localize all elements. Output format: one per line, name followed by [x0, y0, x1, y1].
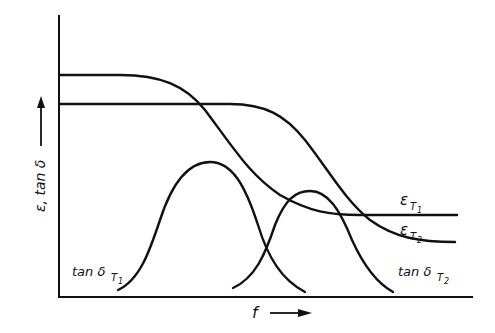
svg-text:ε: ε [400, 221, 408, 239]
up-arrow-icon [37, 96, 45, 108]
dispersion-diagram: ε, tan δ f ε T 1 ε T 2 tan δ T 1 tan δ T… [0, 0, 495, 333]
svg-text:tan δ: tan δ [398, 264, 431, 279]
svg-text:ε, tan δ: ε, tan δ [32, 160, 48, 212]
x-axis-label: f [252, 303, 312, 322]
svg-text:tan δ: tan δ [72, 264, 105, 279]
svg-text:f: f [252, 303, 260, 322]
y-axis-label: ε, tan δ [32, 96, 48, 212]
label-tan-t2: tan δ T 2 [398, 264, 449, 286]
svg-text:2: 2 [417, 236, 422, 245]
svg-text:ε: ε [400, 191, 408, 209]
svg-text:T: T [111, 272, 118, 283]
svg-text:1: 1 [118, 277, 123, 286]
svg-text:2: 2 [444, 277, 449, 286]
label-eps-t2: ε T 2 [400, 221, 422, 245]
svg-text:1: 1 [417, 206, 422, 215]
svg-text:T: T [437, 272, 444, 283]
curve-eps-t1 [59, 75, 457, 215]
label-eps-t1: ε T 1 [400, 191, 422, 215]
svg-text:T: T [410, 201, 417, 212]
curve-tan-t2 [233, 191, 393, 292]
curve-tan-t1 [118, 162, 305, 292]
right-arrow-icon [298, 309, 312, 317]
svg-text:T: T [410, 231, 417, 242]
label-tan-t1: tan δ T 1 [72, 264, 123, 286]
